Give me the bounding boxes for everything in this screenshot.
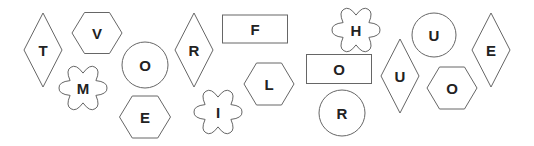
- letter-tile-hexagon: L: [244, 63, 294, 105]
- tile-letter: I: [216, 104, 220, 121]
- letter-tile-circle: R: [319, 90, 365, 136]
- tile-letter: L: [264, 76, 273, 93]
- letter-tile-diamond: E: [472, 13, 510, 87]
- letter-tile-diamond: T: [24, 13, 62, 87]
- tile-letter: E: [486, 42, 496, 59]
- letter-tile-diamond: R: [175, 13, 213, 87]
- letter-shapes-canvas: TVOMERFLIHORUUOE: [0, 0, 534, 146]
- tile-letter: M: [77, 80, 90, 97]
- tile-letter: O: [139, 57, 151, 74]
- letter-tile-hexagon: E: [120, 96, 171, 138]
- tile-letter: F: [250, 21, 259, 38]
- tile-letter: V: [92, 25, 102, 42]
- letter-tile-diamond: U: [381, 39, 419, 113]
- letter-tile-circle: U: [412, 13, 456, 57]
- tile-letter: U: [395, 68, 406, 85]
- tile-letter: R: [189, 42, 200, 59]
- tile-letter: O: [446, 80, 458, 97]
- letter-tile-flower: M: [59, 66, 107, 109]
- letter-tile-flower: H: [332, 8, 380, 51]
- letter-tile-circle: O: [122, 42, 168, 88]
- tile-letter: R: [337, 105, 348, 122]
- letter-tile-rectangle: F: [223, 15, 288, 43]
- letter-tile-hexagon: O: [427, 67, 477, 109]
- letter-tile-flower: I: [194, 90, 242, 133]
- tile-letter: U: [429, 27, 440, 44]
- tile-letter: H: [351, 22, 362, 39]
- letter-tile-hexagon: V: [72, 13, 122, 54]
- tile-letter: O: [333, 61, 345, 78]
- tile-letter: E: [140, 109, 150, 126]
- letter-tile-rectangle: O: [307, 55, 372, 84]
- tile-letter: T: [38, 42, 47, 59]
